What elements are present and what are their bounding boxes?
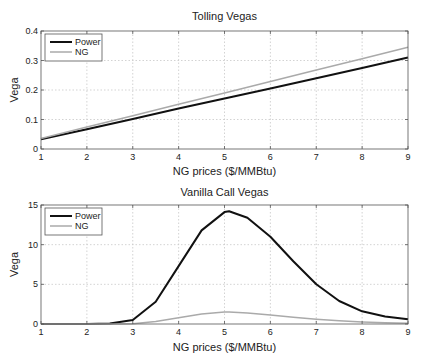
vanilla-call-vegas-chart: Vanilla Call Vegas123456789051015NG pric… (8, 186, 411, 353)
legend: PowerNG (45, 34, 102, 61)
x-axis-label: NG prices ($/MMBtu) (173, 165, 276, 177)
x-tick-label: 9 (405, 327, 410, 337)
legend-power: Power (75, 37, 101, 47)
x-tick-label: 7 (314, 152, 319, 162)
figure: Tolling Vegas12345678900.10.20.30.4NG pr… (0, 0, 424, 363)
y-tick-label: 5 (33, 279, 38, 289)
legend-ng: NG (75, 47, 89, 57)
x-tick-label: 5 (222, 152, 227, 162)
x-tick-label: 3 (130, 327, 135, 337)
x-tick-label: 1 (38, 327, 43, 337)
x-tick-label: 1 (38, 152, 43, 162)
y-tick-label: 0.1 (25, 115, 38, 125)
x-tick-label: 7 (314, 327, 319, 337)
chart-title: Tolling Vegas (192, 10, 257, 22)
x-tick-label: 6 (268, 152, 273, 162)
x-tick-label: 4 (176, 152, 181, 162)
chart-title: Vanilla Call Vegas (181, 186, 269, 198)
x-tick-label: 4 (176, 327, 181, 337)
x-tick-label: 2 (84, 327, 89, 337)
x-tick-label: 9 (405, 152, 410, 162)
x-tick-label: 5 (222, 327, 227, 337)
x-tick-label: 3 (130, 152, 135, 162)
y-tick-label: 0.3 (25, 56, 38, 66)
y-tick-label: 10 (28, 240, 38, 250)
y-tick-label: 0.2 (25, 85, 38, 95)
y-axis-label: Vega (8, 77, 20, 103)
y-tick-label: 0 (33, 319, 38, 329)
legend: PowerNG (45, 208, 102, 235)
y-tick-label: 0.4 (25, 26, 38, 36)
legend-ng: NG (75, 221, 89, 231)
y-tick-label: 15 (28, 200, 38, 210)
x-tick-label: 8 (360, 152, 365, 162)
x-axis-label: NG prices ($/MMBtu) (173, 341, 276, 353)
y-axis-label: Vega (8, 251, 20, 277)
legend-power: Power (75, 211, 101, 221)
y-tick-label: 0 (33, 144, 38, 154)
tolling-vegas-chart: Tolling Vegas12345678900.10.20.30.4NG pr… (8, 10, 411, 177)
x-tick-label: 6 (268, 327, 273, 337)
x-tick-label: 8 (360, 327, 365, 337)
x-tick-label: 2 (84, 152, 89, 162)
